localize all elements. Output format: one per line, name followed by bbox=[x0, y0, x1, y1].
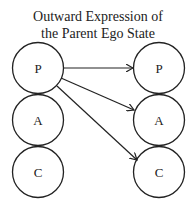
transaction-arrows bbox=[57, 68, 137, 160]
left-ego-states: P A C bbox=[13, 43, 64, 198]
ego-state-diagram: P A C P A C bbox=[0, 0, 196, 205]
right-child-label: C bbox=[155, 165, 164, 180]
arrow-parent-to-adult bbox=[61, 78, 134, 110]
right-adult-label: A bbox=[154, 113, 164, 128]
right-ego-states: P A C bbox=[134, 43, 185, 198]
left-child-label: C bbox=[34, 165, 43, 180]
arrow-parent-to-child bbox=[57, 86, 137, 160]
left-adult-label: A bbox=[33, 113, 43, 128]
left-parent-label: P bbox=[34, 61, 41, 76]
right-parent-label: P bbox=[155, 61, 162, 76]
